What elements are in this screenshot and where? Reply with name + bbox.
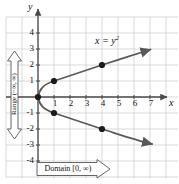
equation-label-text: x = y <box>95 35 116 46</box>
range-banner-label: Range (−∞, ∞) <box>8 56 20 132</box>
y-tick-label-1: 1 <box>24 75 34 85</box>
point-4-2 <box>99 62 105 68</box>
parabola-figure: 1 2 3 4 5 6 7 4 3 2 1 -1 -2 -3 -4 y x x … <box>0 0 179 184</box>
point-1-1 <box>51 78 57 84</box>
y-tick-label-4: 4 <box>24 27 34 37</box>
x-tick-label-7: 7 <box>147 98 155 108</box>
y-axis-label: y <box>28 1 32 12</box>
x-tick-label-5: 5 <box>115 98 123 108</box>
y-tick-label-2: 2 <box>24 59 34 69</box>
x-tick-label-6: 6 <box>131 98 139 108</box>
x-tick-label-4: 4 <box>99 98 107 108</box>
x-tick-label-1: 1 <box>51 98 59 108</box>
y-tick-label-neg3: -3 <box>21 139 34 149</box>
x-axis-label: x <box>169 97 173 108</box>
x-tick-label-2: 2 <box>67 98 75 108</box>
equation-exponent: 2 <box>116 34 119 41</box>
y-tick-label-neg2: -2 <box>21 123 34 133</box>
equation-label: x = y2 <box>95 34 119 46</box>
y-tick-label-neg1: -1 <box>21 107 34 117</box>
point-4-neg2 <box>99 126 105 132</box>
point-origin <box>35 94 41 100</box>
x-tick-label-3: 3 <box>83 98 91 108</box>
point-1-neg1 <box>51 110 57 116</box>
y-tick-label-3: 3 <box>24 43 34 53</box>
parabola-upper-branch <box>38 50 151 98</box>
domain-banner-label: Domain [0, ∞) <box>40 163 96 175</box>
y-tick-label-neg4: -4 <box>21 155 34 165</box>
range-banner-label-wrap: Range (−∞, ∞) <box>8 56 20 132</box>
